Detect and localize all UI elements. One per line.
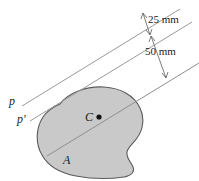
dimension-label-50mm: 50 mm xyxy=(145,46,176,57)
axis-label-p-prime: p' xyxy=(17,113,26,125)
centroid-point-marker xyxy=(96,114,101,119)
area-shape xyxy=(37,87,143,178)
centroid-label: C xyxy=(85,111,93,123)
figure-canvas xyxy=(0,0,199,181)
axis-label-p: p xyxy=(9,95,15,107)
area-label: A xyxy=(63,154,70,166)
dimension-label-25mm: 25 mm xyxy=(148,14,179,25)
figure-container: p p' C A 25 mm 50 mm xyxy=(0,0,199,181)
